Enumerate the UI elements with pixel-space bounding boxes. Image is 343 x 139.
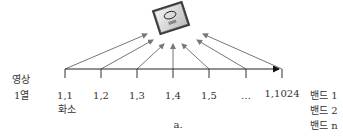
band-label: 밴드 2 xyxy=(310,105,338,117)
row-label-row1: 1열 xyxy=(14,90,29,102)
pixel-label: 1,5 xyxy=(201,90,217,102)
pixel-label: 1,4 xyxy=(165,90,181,102)
band-label: 밴드 1 xyxy=(310,90,338,102)
figure-caption: a. xyxy=(173,119,182,131)
data-flow-arrows xyxy=(65,34,282,69)
pixel-caption: 화소 xyxy=(58,104,76,116)
cpu-chip-icon xyxy=(152,1,190,36)
pixel-label: 1,1 xyxy=(57,90,73,102)
pixel-label: 1,3 xyxy=(129,90,145,102)
row-label-image: 영상 xyxy=(12,74,30,86)
axis-ticks xyxy=(65,69,282,78)
band-label: 밴드 n xyxy=(310,120,338,132)
diagram-graphics xyxy=(0,0,343,139)
pixel-label: … xyxy=(241,90,251,102)
pixel-label: 1,2 xyxy=(93,90,109,102)
pixel-label: 1,1024 xyxy=(265,88,300,100)
